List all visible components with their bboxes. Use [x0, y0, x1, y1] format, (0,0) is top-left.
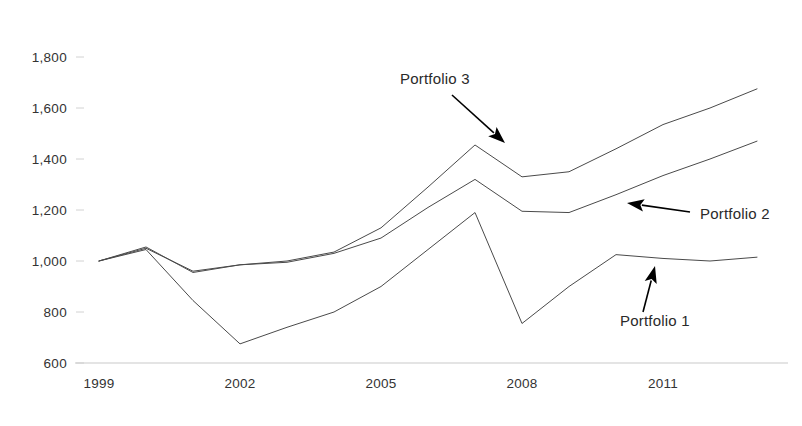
y-axis-tick-labels: 6008001,0001,2001,4001,6001,800 [32, 50, 84, 371]
x-axis-tick-labels: 19992002200520082011 [83, 376, 678, 391]
series-label-2: Portfolio 2 [700, 205, 770, 222]
y-tick-label: 1,400 [32, 152, 67, 167]
x-tick-label: 2011 [648, 376, 678, 391]
x-tick-label: 2005 [365, 376, 396, 391]
y-tick-label: 1,000 [32, 254, 67, 269]
line-chart: 6008001,0001,2001,4001,6001,800 19992002… [0, 0, 802, 426]
series-line-3 [99, 89, 757, 273]
annotation-leader-line [642, 205, 690, 212]
x-tick-label: 2008 [506, 376, 537, 391]
chart-canvas: 6008001,0001,2001,4001,6001,800 19992002… [0, 0, 802, 426]
y-tick-label: 1,800 [32, 50, 67, 65]
series-line-2 [99, 141, 757, 271]
series-label-1: Portfolio 1 [620, 312, 690, 329]
y-tick-label: 800 [44, 305, 67, 320]
series-label-3: Portfolio 3 [400, 70, 470, 87]
y-tick-label: 1,200 [32, 203, 67, 218]
x-tick-label: 1999 [83, 376, 114, 391]
annotation-leader-line [643, 281, 651, 312]
annotation-leader-line [452, 95, 494, 133]
x-tick-label: 2002 [224, 376, 255, 391]
y-tick-label: 1,600 [32, 101, 67, 116]
series-annotations: Portfolio 1Portfolio 2Portfolio 3 [400, 70, 770, 329]
y-tick-label: 600 [44, 356, 67, 371]
series-lines [99, 89, 757, 344]
